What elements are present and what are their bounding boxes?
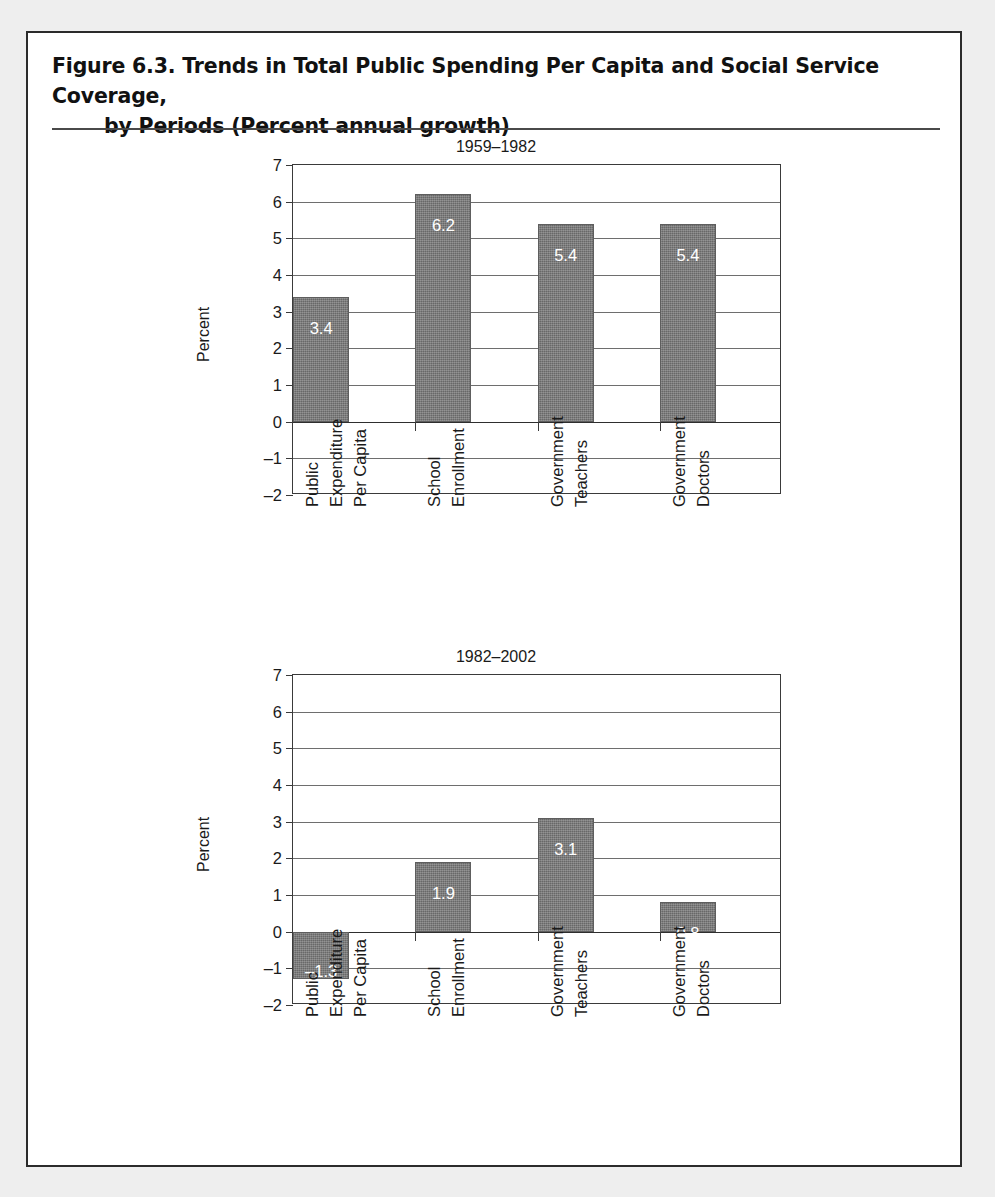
bar-value-label: 6.2 (415, 216, 471, 235)
y-tick-mark (286, 822, 293, 823)
x-category-label: School (425, 967, 444, 1017)
x-category-label: Public (303, 462, 322, 507)
title-divider (52, 128, 940, 130)
plot-area: 76543210–1–2Percent–1.3PublicExpenditure… (292, 674, 781, 1004)
y-tick-mark (286, 785, 293, 786)
x-category-label: Government (548, 416, 567, 507)
x-category-label: Doctors (694, 960, 713, 1017)
x-category-label: Government (670, 926, 689, 1017)
bar-value-label: 5.4 (660, 246, 716, 265)
x-category-label: Teachers (572, 950, 591, 1017)
y-tick-mark (286, 348, 293, 349)
y-tick-label: 7 (273, 156, 282, 175)
gridline (293, 202, 780, 203)
figure-title-line1: Figure 6.3. Trends in Total Public Spend… (52, 54, 879, 108)
y-tick-mark (286, 932, 293, 933)
y-tick-label: 7 (273, 666, 282, 685)
y-tick-mark (286, 275, 293, 276)
x-category-label: Government (670, 416, 689, 507)
chart-title: 1982–2002 (28, 648, 964, 666)
x-category-label: Doctors (694, 450, 713, 507)
gridline (293, 895, 780, 896)
gridline (293, 712, 780, 713)
x-category-label: Expenditure (327, 419, 346, 507)
gridline (293, 858, 780, 859)
x-category-label: Enrollment (449, 938, 468, 1017)
x-category-label: Enrollment (449, 428, 468, 507)
plot-area: 76543210–1–2Percent3.4PublicExpenditureP… (292, 164, 781, 494)
figure-title-line2: by Periods (Percent annual growth) (52, 111, 940, 141)
y-tick-mark (286, 712, 293, 713)
y-tick-label: 5 (273, 739, 282, 758)
x-category-label: Per Capita (351, 429, 370, 507)
gridline (293, 785, 780, 786)
y-tick-label: –1 (264, 449, 282, 468)
x-category-label: School (425, 457, 444, 507)
y-tick-label: 1 (273, 886, 282, 905)
x-category-label: Teachers (572, 440, 591, 507)
y-tick-label: 6 (273, 192, 282, 211)
y-tick-label: 4 (273, 776, 282, 795)
y-tick-mark (286, 895, 293, 896)
y-tick-mark (286, 202, 293, 203)
y-tick-mark (286, 312, 293, 313)
y-tick-mark (286, 495, 293, 496)
x-tick-mark (415, 422, 416, 431)
x-tick-mark (415, 932, 416, 941)
y-tick-label: 0 (273, 922, 282, 941)
y-tick-mark (286, 968, 293, 969)
chart-title: 1959–1982 (28, 138, 964, 156)
x-category-label: Government (548, 926, 567, 1017)
x-category-label: Public (303, 972, 322, 1017)
x-category-label: Expenditure (327, 929, 346, 1017)
figure-page: Figure 6.3. Trends in Total Public Spend… (26, 31, 962, 1167)
chart-1982-2002: 1982–200276543210–1–2Percent–1.3PublicEx… (28, 648, 964, 1164)
y-axis-title: Percent (195, 307, 213, 362)
bar-value-label: 1.9 (415, 884, 471, 903)
chart-1959-1982: 1959–198276543210–1–2Percent3.4PublicExp… (28, 138, 964, 654)
y-tick-label: 5 (273, 229, 282, 248)
y-tick-mark (286, 238, 293, 239)
x-tick-mark (538, 422, 539, 431)
y-axis-title: Percent (195, 817, 213, 872)
y-tick-mark (286, 858, 293, 859)
x-category-label: Per Capita (351, 939, 370, 1017)
y-tick-label: –1 (264, 959, 282, 978)
bar-value-label: 3.1 (538, 840, 594, 859)
y-tick-label: –2 (264, 486, 282, 505)
zero-line (293, 422, 780, 423)
x-tick-mark (538, 932, 539, 941)
y-tick-label: –2 (264, 996, 282, 1015)
y-tick-label: 2 (273, 849, 282, 868)
y-tick-mark (286, 165, 293, 166)
gridline (293, 748, 780, 749)
y-tick-mark (286, 675, 293, 676)
bar-value-label: 5.4 (538, 246, 594, 265)
y-tick-label: 3 (273, 812, 282, 831)
y-tick-mark (286, 385, 293, 386)
y-tick-label: 1 (273, 376, 282, 395)
y-tick-mark (286, 422, 293, 423)
y-tick-label: 6 (273, 702, 282, 721)
bar[interactable] (538, 818, 594, 932)
y-tick-mark (286, 1005, 293, 1006)
bar[interactable] (293, 297, 349, 422)
bar-value-label: 3.4 (293, 319, 349, 338)
x-tick-mark (660, 422, 661, 431)
gridline (293, 822, 780, 823)
y-tick-label: 2 (273, 339, 282, 358)
y-tick-label: 0 (273, 412, 282, 431)
y-tick-label: 4 (273, 266, 282, 285)
y-tick-label: 3 (273, 302, 282, 321)
y-tick-mark (286, 748, 293, 749)
y-tick-mark (286, 458, 293, 459)
